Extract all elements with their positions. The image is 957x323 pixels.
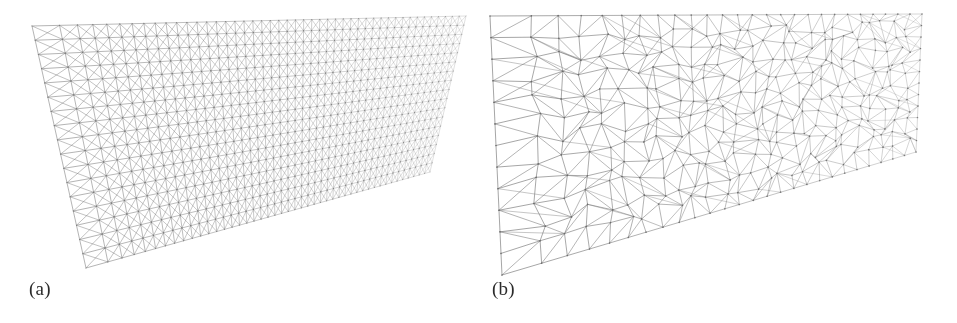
mesh-panel-b: (b) (478, 0, 956, 323)
panel-label-b: (b) (492, 279, 515, 298)
unstructured-mesh-canvas (478, 0, 956, 280)
structured-mesh-canvas (0, 0, 478, 280)
panel-label-a: (a) (29, 279, 51, 298)
mesh-panel-a: (a) (0, 0, 478, 323)
figure-container: (a) (b) (0, 0, 957, 323)
